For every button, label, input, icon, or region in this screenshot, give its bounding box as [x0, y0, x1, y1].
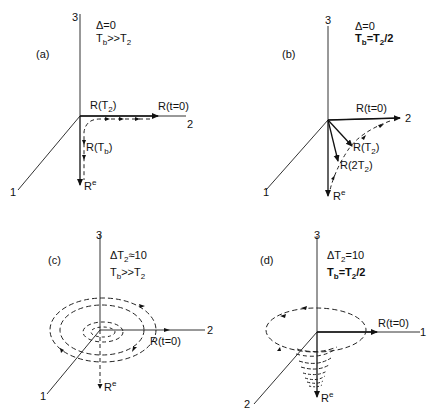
panel-d-label: (d): [260, 255, 273, 266]
panel-d-param-tb: Tb=T2/2: [327, 267, 365, 278]
panel-b-vector-t0-label: R(t=0): [356, 103, 387, 114]
panel-a-axis-3-label: 3: [72, 12, 78, 23]
panel-b-axis-3-label: 3: [325, 15, 331, 26]
panel-b-vector-2T2-label: R(2T2): [340, 160, 373, 171]
axis-2: [254, 332, 317, 404]
panel-c-param-delta: ΔT2≈10: [110, 250, 147, 261]
panel-c-axis-2-label: 2: [207, 325, 213, 336]
axis-1: [266, 120, 328, 190]
panel-d-axis-2-label: 2: [244, 399, 250, 410]
spiral-outer: [266, 308, 366, 352]
panel-b-param-delta: Δ=0: [355, 21, 375, 32]
panel-c-param-tb: Tb>>T2: [110, 267, 145, 278]
panel-d-axis-1-label: 1: [420, 327, 426, 338]
panel-a-vector-T2-label: R(T2): [90, 100, 116, 111]
panel-b-axis-2-label: 2: [405, 113, 411, 124]
panel-c-axis-1-label: 1: [40, 391, 46, 402]
panel-d-axis-3-label: 3: [314, 230, 320, 241]
spiral-core: [91, 327, 115, 337]
panel-d-param-delta: ΔT2=10: [327, 250, 364, 261]
panel-c-axis-3-label: 3: [96, 230, 102, 241]
panel-a-vector-t0-label: R(t=0): [158, 101, 189, 112]
axis-1: [47, 330, 100, 394]
panel-b-axis-1-label: 1: [263, 187, 269, 198]
panel-a-label: (a): [36, 49, 49, 60]
panel-a-param-tb: Tb>>T2: [96, 33, 131, 44]
panel-a-axis-2-label: 2: [187, 119, 193, 130]
panel-a-vector-Re-label: Re: [84, 181, 96, 192]
panel-b-vector-Re-label: Re: [333, 191, 345, 202]
panel-b-label: (b): [282, 49, 295, 60]
panel-c-label: (c): [48, 255, 61, 266]
vector-Rt0: [328, 118, 400, 120]
panel-c-vector-t0-label: R(t=0): [150, 336, 181, 347]
panel-b-param-tb: Tb=T2/2: [355, 33, 393, 44]
spiral-inner: [83, 322, 123, 342]
axis-1: [18, 116, 80, 190]
panel-c-vector-Re-label: Re: [104, 382, 116, 393]
panel-a-param-delta: Δ=0: [96, 20, 116, 31]
panel-d-vector-t0-label: R(t=0): [378, 318, 409, 329]
panel-d-vector-Re-label: Re: [321, 393, 333, 404]
panel-b-vector-T2-label: R(T2): [353, 142, 379, 153]
panel-a-vector-Tb-label: R(Tb): [86, 142, 112, 153]
panel-a-axis-1-label: 1: [10, 187, 16, 198]
diagram-canvas: [0, 0, 431, 411]
